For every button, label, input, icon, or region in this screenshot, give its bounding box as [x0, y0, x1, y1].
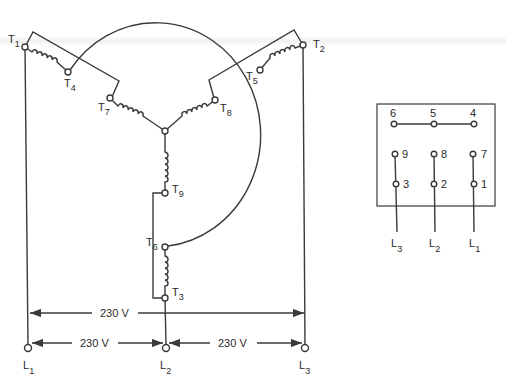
- terminal-t2: [300, 42, 306, 48]
- coil-t1-t4: [25, 47, 68, 72]
- label-t9: T9: [172, 183, 184, 199]
- board-terminal-9: [392, 151, 398, 157]
- terminal-t4: [65, 69, 71, 75]
- board-line-label-l3: L3: [391, 237, 402, 254]
- jumper-t2-t8: [209, 30, 303, 98]
- coil-t8-center: [165, 100, 215, 131]
- label-t4: T4: [64, 77, 76, 93]
- terminal-l3: [302, 345, 309, 352]
- phase-1-winding: [25, 32, 165, 131]
- board-line-label-l1: L1: [469, 237, 480, 254]
- voltage-label-l2-l3: 230 V: [218, 337, 247, 349]
- coil-t2-t5: [260, 45, 303, 70]
- terminal-t7: [107, 95, 113, 101]
- phase-2-winding: [165, 30, 303, 131]
- board-terminal-3: [393, 181, 399, 187]
- board-terminal-2: [431, 181, 437, 187]
- board-label-1: 1: [481, 178, 487, 190]
- terminal-t8: [212, 97, 218, 103]
- lead-t3-l2: [165, 298, 166, 345]
- label-t3: T3: [172, 286, 184, 302]
- terminal-t5: [257, 67, 263, 73]
- lead-t2-l3: [303, 45, 305, 345]
- terminal-t3: [162, 295, 168, 301]
- board-label-2: 2: [441, 178, 447, 190]
- coil-t7-center: [110, 98, 165, 131]
- label-t2: T2: [313, 38, 325, 54]
- board-label-4: 4: [470, 107, 476, 119]
- coil-t6-t3: [165, 247, 168, 298]
- board-line-label-l2: L2: [429, 237, 440, 254]
- label-t1: T1: [8, 33, 20, 49]
- board-terminal-7: [470, 151, 476, 157]
- board-terminal-4: [471, 121, 477, 127]
- terminal-l2: [163, 345, 170, 352]
- label-t6: T6: [146, 236, 158, 252]
- voltage-l1-l2: 230 V: [32, 337, 163, 349]
- board-terminal-8: [431, 151, 437, 157]
- label-t7: T7: [98, 101, 110, 117]
- board-label-3: 3: [403, 178, 409, 190]
- board-terminal-5: [431, 121, 437, 127]
- terminal-center: [162, 128, 168, 134]
- board-label-9: 9: [402, 148, 408, 160]
- terminal-t6: [162, 244, 168, 250]
- terminal-l1: [25, 345, 32, 352]
- coil-center-t9: [165, 131, 168, 193]
- label-l1: L1: [23, 359, 34, 376]
- lead-8-2-l2: [434, 154, 435, 232]
- voltage-l2-l3: 230 V: [169, 337, 302, 349]
- lead-9-3-l3: [395, 154, 397, 232]
- voltage-label-l1-l2: 230 V: [80, 337, 109, 349]
- terminal-t1: [22, 44, 28, 50]
- terminal-t9: [162, 190, 168, 196]
- terminal-board: 6 5 4 9 8 7 3 2 1 L3 L2 L1: [377, 104, 495, 254]
- label-t5: T5: [246, 70, 258, 86]
- label-t8: T8: [220, 102, 232, 118]
- board-label-8: 8: [441, 148, 447, 160]
- wiring-diagram: T1 T4 T7 T8 T5 T2 T9 T6 T3 L1 L2 L3 230 …: [0, 0, 506, 386]
- board-terminal-6: [391, 121, 397, 127]
- voltage-l1-l3: 230 V: [30, 307, 304, 319]
- board-label-5: 5: [430, 107, 436, 119]
- board-terminal-1: [471, 181, 477, 187]
- lead-7-1-l1: [473, 154, 474, 232]
- board-label-7: 7: [481, 148, 487, 160]
- label-l2: L2: [160, 359, 171, 376]
- phase-3-winding: [153, 131, 168, 298]
- lead-t1-l1: [25, 47, 28, 345]
- voltage-label-l1-l3: 230 V: [100, 307, 129, 319]
- label-l3: L3: [299, 359, 310, 376]
- board-label-6: 6: [390, 107, 396, 119]
